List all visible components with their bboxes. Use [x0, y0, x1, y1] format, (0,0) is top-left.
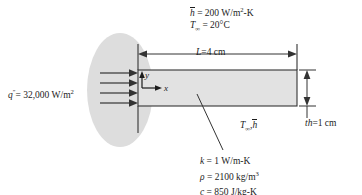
length-value: =4 cm — [201, 47, 225, 57]
heat-flux-annotation: q″= 32,000 W/m2 — [8, 86, 74, 102]
property-row: c = 850 J/kg-K — [200, 183, 259, 195]
h-bar-symbol: h — [190, 8, 195, 20]
flux-value: = 32,000 W/m — [16, 90, 71, 100]
h-bar-value: = 200 W/m — [197, 8, 240, 18]
property-symbol: ρ — [200, 172, 205, 182]
property-value: = 2100 kg/m — [207, 172, 256, 182]
thickness-dimension — [299, 70, 316, 118]
y-axis-label: y — [145, 70, 149, 82]
thickness-value: =1 cm — [312, 118, 336, 128]
x-axis-label: x — [164, 83, 168, 95]
property-value: = 1 W/m-K — [207, 156, 251, 166]
surface-h-bar-symbol: h — [252, 120, 257, 132]
property-symbol: c — [200, 187, 204, 195]
t-infinity-subscript: ∞ — [195, 25, 200, 32]
surface-convection-annotation: T∞,h — [240, 120, 257, 134]
h-bar-line: h = 200 W/m2-K — [190, 4, 254, 20]
property-row: ρ = 2100 kg/m3 — [200, 168, 259, 184]
property-value: = 850 J/kg-K — [207, 187, 257, 195]
length-annotation: L=4 cm — [196, 47, 225, 59]
property-row: k = 1 W/m-K — [200, 152, 259, 168]
flux-unit-exponent: 2 — [71, 88, 74, 95]
thickness-annotation: th=1 cm — [305, 118, 336, 130]
convection-annotation: h = 200 W/m2-K T∞ = 20°C — [190, 4, 254, 34]
property-exponent: 3 — [256, 170, 259, 177]
material-properties-annotation: k = 1 W/m-K ρ = 2100 kg/m3 c = 850 J/kg-… — [200, 152, 259, 195]
t-infinity-line: T∞ = 20°C — [190, 20, 254, 34]
h-unit-tail: -K — [244, 8, 254, 18]
heat-transfer-schematic: h = 200 W/m2-K T∞ = 20°C q″= 32,000 W/m2… — [0, 0, 362, 195]
t-infinity-value: = 20°C — [202, 20, 229, 30]
property-symbol: k — [200, 156, 204, 166]
